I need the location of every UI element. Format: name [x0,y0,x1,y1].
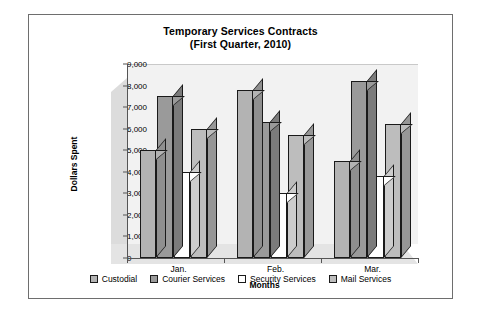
chart-title-line1: Temporary Services Contracts [29,25,452,38]
bar-side-face [207,117,217,258]
legend-label: Security Services [250,274,316,284]
legend-swatch [150,275,158,283]
legend-item-custodial: Custodial [90,274,137,284]
legend-swatch [90,275,98,283]
legend-item-security-services: Security Services [238,274,316,284]
plot-side-wall [111,78,127,258]
legend-label: Mail Services [341,274,392,284]
bar-side-face [173,84,183,258]
x-axis-tick-mark [127,258,128,263]
bar-front-face [334,161,350,258]
bar-front-face [140,150,156,258]
legend-swatch [238,275,246,283]
y-axis-title: Dollars Spent [69,137,79,192]
bar-side-face [367,69,377,258]
chart-legend: CustodialCourier ServicesSecurity Servic… [29,274,452,284]
chart-frame: Temporary Services Contracts (First Quar… [28,14,453,299]
legend-label: Custodial [102,274,137,284]
legend-swatch [329,275,337,283]
x-axis-tick-mark [418,258,419,263]
bar-side-face [270,110,280,258]
x-axis-tick-label: Feb. [267,264,284,274]
bar-side-face [253,78,263,258]
plot-area: 01,0002,0003,0004,0005,0006,0007,0008,00… [111,64,418,264]
chart-title-line2: (First Quarter, 2010) [29,38,452,51]
x-axis-line [127,258,418,259]
x-axis-tick-label: Jan. [170,264,186,274]
x-axis-tick-label: Mar. [364,264,381,274]
x-axis-tick-mark [321,258,322,263]
chart-title: Temporary Services Contracts (First Quar… [29,25,452,51]
bar-side-face [401,112,411,258]
x-axis-tick-mark [224,258,225,263]
bar-custodial-jan [140,150,156,258]
legend-item-mail-services: Mail Services [329,274,392,284]
bar-front-face [237,90,253,258]
legend-item-courier-services: Courier Services [150,274,225,284]
legend-label: Courier Services [162,274,225,284]
bar-custodial-mar [334,161,350,258]
y-axis-line [127,64,128,258]
bar-custodial-feb [237,90,253,258]
